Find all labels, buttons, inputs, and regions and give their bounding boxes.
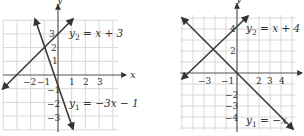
svg-text:3: 3 bbox=[97, 77, 103, 87]
svg-text:1: 1 bbox=[52, 56, 58, 66]
svg-text:2: 2 bbox=[83, 77, 89, 87]
svg-text:−1: −1 bbox=[221, 76, 234, 86]
svg-text:−2: −2 bbox=[225, 90, 238, 100]
equation-y2-left: y2 = x + 3 bbox=[68, 27, 124, 42]
y-axis-label-right: y bbox=[235, 0, 242, 4]
svg-text:−2: −2 bbox=[23, 77, 36, 87]
svg-text:4: 4 bbox=[230, 24, 236, 34]
graph-right: y −3 −1 2 3 4 4 2 −2 −3 −4 y2 = x + 4 y1… bbox=[180, 0, 302, 132]
svg-text:−3: −3 bbox=[198, 76, 212, 86]
svg-text:−2: −2 bbox=[47, 99, 60, 109]
svg-text:2: 2 bbox=[51, 43, 57, 53]
x-ticks-left: −2 −1 1 2 3 bbox=[23, 77, 103, 87]
svg-text:3: 3 bbox=[267, 76, 273, 86]
svg-text:−3: −3 bbox=[47, 113, 61, 123]
svg-text:−3: −3 bbox=[225, 101, 239, 111]
svg-text:2: 2 bbox=[230, 46, 236, 56]
svg-text:2: 2 bbox=[256, 76, 262, 86]
svg-text:4: 4 bbox=[279, 76, 285, 86]
svg-text:3: 3 bbox=[49, 29, 55, 39]
svg-text:1: 1 bbox=[69, 77, 75, 87]
y-axis-label-left: y bbox=[56, 0, 63, 5]
x-axis-label-left: x bbox=[130, 69, 136, 80]
graphs-canvas: x y −2 −1 1 2 3 3 2 1 −1 −2 −3 y2 = x + … bbox=[0, 0, 304, 136]
equation-y1-left: y1 = −3x − 1 bbox=[68, 97, 139, 112]
svg-text:−1: −1 bbox=[47, 85, 60, 95]
graph-left: x y −2 −1 1 2 3 3 2 1 −1 −2 −3 y2 = x + … bbox=[3, 0, 139, 132]
svg-text:−4: −4 bbox=[225, 113, 239, 123]
